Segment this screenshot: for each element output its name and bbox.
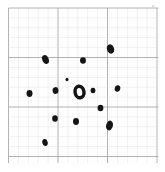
centre-ring-marker [72,83,87,100]
data-point-blob [41,54,50,65]
data-point-blob [42,138,49,146]
data-point-blob [52,115,58,121]
data-point-blob [80,57,86,64]
data-point-blob [114,85,121,92]
data-point-blob [106,43,116,54]
data-point-blob [73,118,79,125]
data-point-blob [105,120,114,131]
data-point-blob [66,78,69,81]
scatter-marks-layer [0,0,165,172]
data-point-blob [91,88,96,94]
data-point-blob [98,105,104,112]
scanned-figure-plate [0,0,165,172]
scan-speck [152,5,154,7]
data-point-blob [27,90,33,97]
data-point-blob [52,87,59,95]
